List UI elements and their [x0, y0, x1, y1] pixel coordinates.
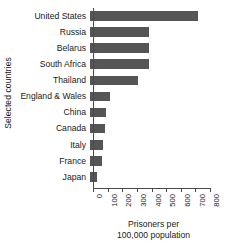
- bar-row: France: [16, 153, 227, 169]
- bar-track: [90, 105, 223, 121]
- x-tick-label: 200: [125, 194, 133, 207]
- bar-row: United States: [16, 8, 227, 24]
- x-tick-label: 600: [184, 194, 192, 207]
- y-axis-title: Selected countries: [0, 0, 16, 186]
- plot-area: United StatesRussiaBelarusSouth AfricaTh…: [16, 8, 227, 186]
- category-label: Belarus: [16, 44, 90, 53]
- bar-track: [90, 56, 223, 72]
- bar: [90, 27, 149, 37]
- bar-row: Japan: [16, 169, 227, 185]
- x-tick-label: 800: [213, 194, 221, 207]
- bar-track: [90, 72, 223, 88]
- bar-track: [90, 153, 223, 169]
- x-tick-label: 300: [140, 194, 148, 207]
- bar-track: [90, 137, 223, 153]
- x-tick: [122, 188, 123, 192]
- x-tick: [166, 188, 167, 192]
- bar-track: [90, 8, 223, 24]
- category-label: Canada: [16, 124, 90, 133]
- x-axis-title-line2: 100,000 population: [80, 230, 227, 241]
- category-label: South Africa: [16, 60, 90, 69]
- category-label: Italy: [16, 141, 90, 150]
- x-tick-label: 700: [199, 194, 207, 207]
- bar: [90, 76, 138, 86]
- category-label: Russia: [16, 28, 90, 37]
- category-label: United States: [16, 12, 90, 21]
- bar-row: Thailand: [16, 72, 227, 88]
- bar: [90, 43, 149, 53]
- bar: [90, 156, 102, 166]
- x-tick: [152, 188, 153, 192]
- category-label: Thailand: [16, 76, 90, 85]
- x-tick-label: 500: [169, 194, 177, 207]
- bar-track: [90, 40, 223, 56]
- bar: [90, 59, 149, 69]
- x-tick: [108, 188, 109, 192]
- bar-row: Canada: [16, 121, 227, 137]
- x-tick: [137, 188, 138, 192]
- bar-row: South Africa: [16, 56, 227, 72]
- x-tick: [210, 188, 211, 192]
- category-label: China: [16, 108, 90, 117]
- y-axis-line: [93, 8, 94, 188]
- bar-track: [90, 24, 223, 40]
- x-axis-title: Prisoners per 100,000 population: [80, 219, 227, 241]
- bar-row: China: [16, 105, 227, 121]
- bar-row: Belarus: [16, 40, 227, 56]
- bar-track: [90, 88, 223, 104]
- x-tick-label: 100: [111, 194, 119, 207]
- x-axis-title-line1: Prisoners per: [80, 219, 227, 230]
- x-tick: [93, 188, 94, 192]
- bar-chart: Selected countries United StatesRussiaBe…: [0, 0, 227, 245]
- bar: [90, 11, 198, 21]
- bar-row: Russia: [16, 24, 227, 40]
- bar-track: [90, 121, 223, 137]
- bar-row: Italy: [16, 137, 227, 153]
- x-tick: [181, 188, 182, 192]
- bar: [90, 140, 103, 150]
- x-tick-label: 0: [96, 194, 104, 198]
- bar-track: [90, 169, 223, 185]
- x-tick: [195, 188, 196, 192]
- category-label: Japan: [16, 173, 90, 182]
- category-label: England & Wales: [16, 92, 90, 101]
- bar-row: England & Wales: [16, 88, 227, 104]
- category-label: France: [16, 157, 90, 166]
- y-axis-title-text: Selected countries: [3, 57, 13, 129]
- x-tick-label: 400: [155, 194, 163, 207]
